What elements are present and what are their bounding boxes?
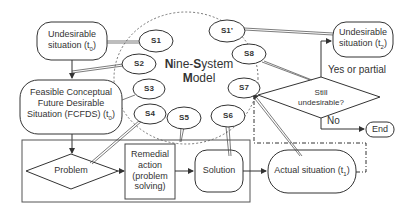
callout-s1-label: S1	[139, 36, 173, 46]
fcfds-line1: Feasible Conceptual	[20, 87, 122, 98]
no-label: No	[327, 115, 347, 127]
problem-label: Problem	[40, 165, 102, 176]
still-line1: Still	[285, 88, 357, 98]
undesirable-t2-line1: Undesirable	[333, 27, 393, 38]
arrow-to-still-undesirable	[254, 96, 258, 97]
callout-s8-label: S8	[232, 49, 266, 59]
callout-s6-label: S6	[211, 111, 245, 121]
undesirable-t2-label: Undesirable situation (t2)	[333, 27, 393, 51]
solution-label: Solution	[195, 165, 243, 176]
title-line2: Model	[160, 71, 238, 85]
undesirable-t0-line2: situation (t0)	[37, 40, 107, 53]
callout-s7-label: S7	[228, 83, 260, 93]
title-line1: Nine-System	[160, 57, 238, 71]
remedial-line4: solving)	[125, 181, 175, 192]
fcfds-line3: Situation (FCFDS) (t0)	[20, 109, 122, 122]
callout-s4-label: S4	[134, 109, 166, 119]
undesirable-t0-line1: Undesirable	[37, 29, 107, 40]
callout-s1-prime-label: S1’	[209, 26, 245, 36]
callout-s3-label: S3	[133, 84, 165, 94]
callout-s5-label: S5	[167, 113, 201, 123]
nine-system-model-title: Nine-System Model	[160, 57, 238, 86]
undesirable-t2-line2: situation (t2)	[333, 38, 393, 51]
remedial-action-label: Remedial action (problem solving)	[125, 149, 175, 192]
remedial-line1: Remedial	[125, 149, 175, 160]
still-line2: undesirable?	[285, 98, 357, 108]
fcfds-line2: Future Desirable	[20, 98, 122, 109]
fcfds-label: Feasible Conceptual Future Desirable Sit…	[20, 87, 122, 122]
still-undesirable-label: Still undesirable?	[285, 88, 357, 107]
remedial-line3: (problem	[125, 171, 175, 182]
undesirable-t0-label: Undesirable situation (t0)	[37, 29, 107, 53]
yes-or-partial-label: Yes or partial	[328, 64, 408, 76]
remedial-line2: action	[125, 160, 175, 171]
callout-s2-label: S2	[122, 59, 156, 69]
actual-situation-label: Actual situation (t1)	[268, 165, 356, 178]
end-label: End	[366, 124, 394, 135]
